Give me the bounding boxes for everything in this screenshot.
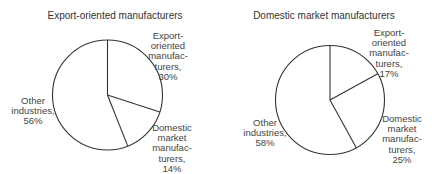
label-right-export: Export- oriented manufac- turers, 17%: [369, 28, 409, 79]
pie-right-svg: [0, 0, 434, 174]
label-right-domestic: Domestic market manufac- turers, 25%: [382, 114, 422, 165]
pie-chart-domestic-market: Domestic market manufacturers Export- or…: [0, 0, 434, 174]
chart-title-right: Domestic market manufacturers: [253, 10, 395, 21]
label-right-other: Other industries, 58%: [243, 118, 286, 149]
